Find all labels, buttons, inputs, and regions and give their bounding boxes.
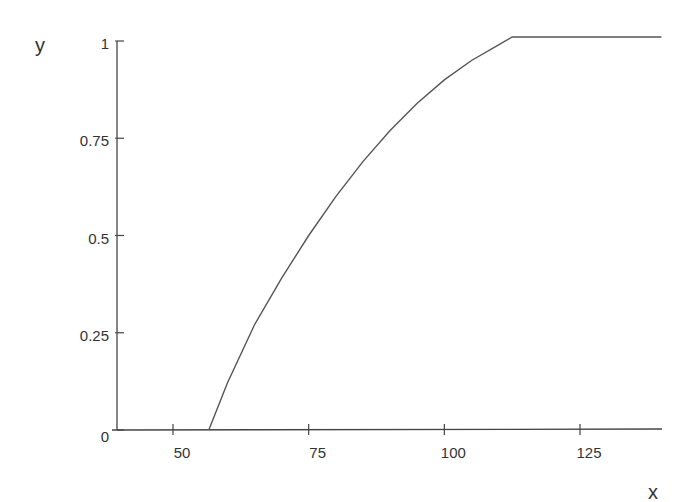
y-tick-label: 0.5	[88, 230, 109, 247]
axes: 00.250.50.7515075100125	[80, 35, 662, 461]
y-tick-label: 0.25	[80, 327, 109, 344]
y-tick-label: 0.75	[80, 132, 109, 149]
x-axis-title: x	[648, 481, 658, 502]
x-tick-label: 50	[174, 444, 191, 461]
y-tick-label: 0	[101, 428, 109, 445]
x-tick-label: 100	[441, 444, 466, 461]
y-tick-label: 1	[101, 35, 109, 52]
x-tick-label: 75	[309, 444, 326, 461]
y-axis-title: y	[35, 34, 45, 56]
line-chart: 00.250.50.7515075100125 y x	[0, 0, 697, 502]
x-tick-label: 125	[576, 444, 601, 461]
data-curve	[209, 37, 662, 430]
